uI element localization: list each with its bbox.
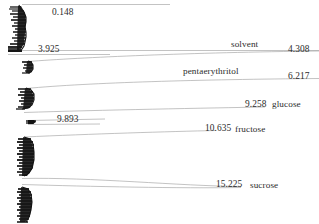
trace-segment-4 (26, 120, 36, 124)
trace-segment-2 (22, 61, 33, 73)
leader-lines (8, 5, 319, 188)
retention-time-label-15225: 15.225 (216, 180, 242, 189)
retention-time-label-9258: 9.258 (245, 100, 267, 109)
compound-label-fructose: fructose (235, 125, 265, 134)
retention-time-label-6217: 6.217 (288, 72, 310, 81)
trace-segment-3 (16, 88, 34, 109)
leader-6217 (26, 79, 319, 89)
retention-time-label-4308: 4.308 (288, 45, 310, 54)
leader-15225-b (22, 185, 241, 188)
retention-time-label-10635: 10.635 (205, 124, 231, 133)
retention-time-label-3925: 3.925 (38, 45, 60, 54)
retention-time-label-9893: 9.893 (57, 115, 79, 124)
leader-4308 (28, 51, 319, 62)
compound-label-solvent: solvent (231, 40, 258, 49)
compound-label-sucrose: sucrose (250, 181, 278, 190)
chromatogram-figure: 0.148 3.925 solvent 4.308 pentaerythrito… (0, 0, 319, 224)
compound-label-pentaerythritol: pentaerythritol (183, 67, 239, 76)
compound-label-glucose: glucose (272, 100, 301, 109)
leader-10635 (24, 131, 216, 138)
chromatogram-svg (0, 0, 319, 224)
retention-time-label-0148: 0.148 (52, 8, 74, 17)
trace-segment-1 (8, 5, 26, 52)
trace-segment-5 (17, 137, 34, 176)
trace-segment-6 (17, 187, 32, 222)
leader-9258 (24, 107, 265, 113)
